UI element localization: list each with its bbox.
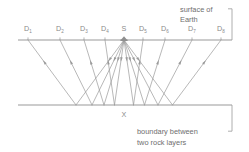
boundary-annotation-line1: boundary between xyxy=(137,127,198,136)
ray-down-leg-to-d8 xyxy=(124,40,173,105)
surface-annotation-line2: Earth xyxy=(180,15,198,24)
detector-label-d6: D6 xyxy=(161,24,169,34)
detector-label-d4: D4 xyxy=(101,24,109,34)
ray-up-leg-to-d7 xyxy=(158,40,192,105)
ray-arrowhead xyxy=(178,60,181,65)
detector-label-d8: D8 xyxy=(217,24,225,34)
ray-down-leg-to-d1 xyxy=(76,40,124,105)
ray-up-leg-to-d4 xyxy=(105,40,115,105)
ray-arrowhead xyxy=(90,60,93,65)
ray-arrowhead xyxy=(113,57,116,62)
ray-paths-group xyxy=(28,40,221,105)
diagram-canvas: D1D2D3D4D5D6D7D8 S X surface of Earth bo… xyxy=(0,0,249,152)
detector-label-d2: D2 xyxy=(56,24,64,34)
detector-label-d1: D1 xyxy=(24,24,32,34)
boundary-annotation: boundary between two rock layers xyxy=(137,105,232,147)
detector-label-d5: D5 xyxy=(139,24,147,34)
seismic-reflection-diagram: D1D2D3D4D5D6D7D8 S X surface of Earth bo… xyxy=(0,0,249,152)
ray-down-leg-to-d3 xyxy=(104,40,124,105)
surface-leader-line xyxy=(228,9,232,40)
source-label: S xyxy=(122,24,127,33)
detector-label-d7: D7 xyxy=(188,24,196,34)
boundary-annotation-line2: two rock layers xyxy=(137,138,187,147)
ray-arrowhead xyxy=(128,57,131,62)
surface-annotation-line1: surface of xyxy=(180,5,213,14)
surface-annotation: surface of Earth xyxy=(180,5,232,40)
ray-arrowhead xyxy=(117,57,120,62)
ray-up-leg-to-d8 xyxy=(173,40,222,105)
reflection-point-label: X xyxy=(122,110,127,119)
ray-up-leg-to-d6 xyxy=(145,40,166,105)
detector-label-d3: D3 xyxy=(80,24,88,34)
ray-arrowhead xyxy=(132,57,135,62)
ray-up-leg-to-d1 xyxy=(28,40,76,105)
ray-arrowhead xyxy=(70,60,73,65)
ray-arrowhead xyxy=(156,60,159,65)
boundary-leader-line xyxy=(228,105,232,131)
source-marker xyxy=(120,36,127,41)
